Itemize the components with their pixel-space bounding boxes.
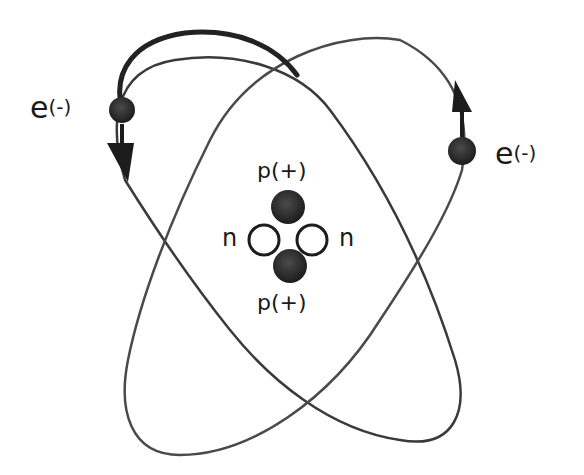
electron-label-left: e(-): [30, 93, 71, 123]
proton-bottom: [273, 249, 307, 283]
neutron-left: [249, 225, 279, 255]
electron-symbol: e: [30, 90, 48, 125]
proton-top: [271, 190, 305, 224]
atom-diagram: e(-) e(-) p(+) p(+) n n: [0, 0, 584, 475]
neutron-right: [297, 225, 327, 255]
electron-symbol: e: [495, 136, 513, 171]
electron-charge: (-): [48, 95, 71, 119]
electron-left: [109, 97, 135, 123]
arrow-down-icon: [107, 143, 134, 182]
arrow-up-icon: [452, 80, 472, 112]
proton-label-top: p(+): [257, 160, 307, 182]
electron-label-right: e(-): [495, 139, 536, 169]
electron-charge: (-): [513, 141, 536, 165]
proton-label-bottom: p(+): [257, 292, 307, 314]
neutron-label-right: n: [339, 226, 354, 250]
neutron-label-left: n: [222, 226, 237, 250]
nucleus: [249, 190, 327, 283]
electron-right: [448, 137, 476, 165]
orbits-canvas: [0, 0, 584, 475]
